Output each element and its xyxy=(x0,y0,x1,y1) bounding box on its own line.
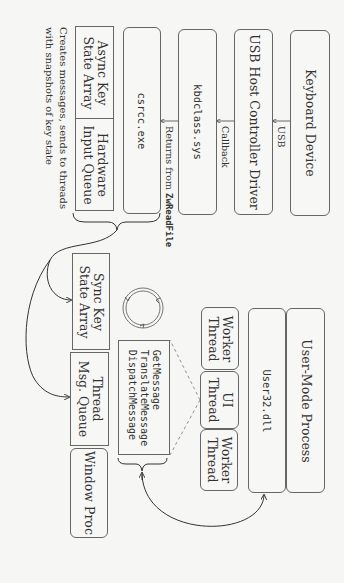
sync-key-state-label: Sync KeyState Array xyxy=(77,265,106,338)
dashed-line-top xyxy=(170,340,200,400)
worker-thread-2-label: WorkerThread xyxy=(205,437,234,483)
annotation-text: Creates messages, sends to threadswith s… xyxy=(42,27,70,209)
async-key-state-label: Async KeyState Array xyxy=(80,36,109,109)
csrss-label: csrcc.exe xyxy=(136,92,148,149)
worker-thread-1-label: WorkerThread xyxy=(206,315,235,361)
thread-msg-queue-label: ThreadMsg. Queue xyxy=(75,361,104,437)
kbdclass-label: kbdclass.sys xyxy=(191,84,203,160)
callback-edge-label: Callback xyxy=(220,126,231,168)
message-loop-box: GetMessageTranslateMessageDispatchMessag… xyxy=(118,340,170,455)
usb-host-controller-label: USB Host Controller Driver xyxy=(246,34,260,210)
returns-edge-label: Returns from ZwReadFile xyxy=(164,126,175,247)
bottom-brace xyxy=(118,458,167,471)
csrss-box: csrcc.exe xyxy=(123,27,161,214)
usb-edge-label: USB xyxy=(276,126,287,148)
usb-host-controller-box: USB Host Controller Driver xyxy=(234,29,273,215)
keyboard-device-box: Keyboard Device xyxy=(290,30,330,216)
worker-thread-1-box: WorkerThread xyxy=(201,307,239,370)
kbdclass-box: kbdclass.sys xyxy=(178,29,217,215)
dashed-line-bottom xyxy=(170,400,200,455)
hardware-input-queue-label: HardwareInput Queue xyxy=(80,125,109,204)
ui-thread-box: UIThread xyxy=(200,371,239,429)
thread-msg-queue-box: ThreadMsg. Queue xyxy=(70,352,109,446)
message-loop-cycle-icon xyxy=(123,288,163,328)
user-mode-process-box: User-Mode Process xyxy=(286,308,325,493)
user32-dll-box: User32.dll xyxy=(248,308,286,493)
window-proc-label: Window Proc xyxy=(82,451,96,535)
window-proc-box: Window Proc xyxy=(70,448,108,538)
sync-key-state-box: Sync KeyState Array xyxy=(72,253,110,350)
message-loop-functions: GetMessageTranslateMessageDispatchMessag… xyxy=(126,349,162,445)
top-brace xyxy=(73,213,160,230)
user-mode-process-label: User-Mode Process xyxy=(298,339,312,462)
user32-dll-label: User32.dll xyxy=(261,369,273,432)
keyboard-device-label: Keyboard Device xyxy=(303,69,317,176)
hardware-input-queue-box: HardwareInput Queue xyxy=(75,118,114,211)
worker-thread-2-box: WorkerThread xyxy=(200,429,238,491)
async-key-state-box: Async KeyState Array xyxy=(75,26,114,119)
ui-thread-label: UIThread xyxy=(205,377,234,422)
